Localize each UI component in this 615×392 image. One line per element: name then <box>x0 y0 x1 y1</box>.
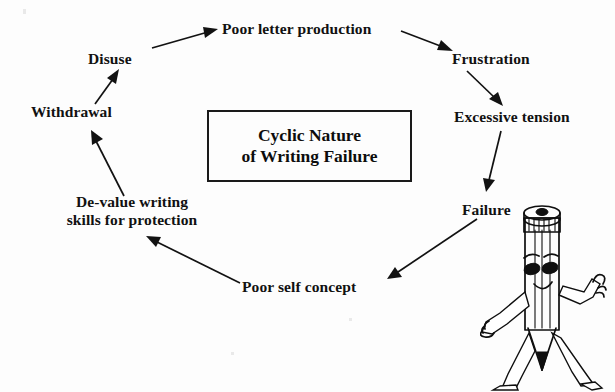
scan-artifact-speck <box>231 352 234 355</box>
arrow-de-value-writing-to-withdrawal <box>91 130 124 196</box>
scan-artifact-speck <box>349 318 352 321</box>
node-poor-self-concept: Poor self concept <box>242 278 356 296</box>
node-excessive-tension: Excessive tension <box>454 108 570 126</box>
arrow-disuse-to-poor-letter-production <box>152 27 218 48</box>
center-title-box: Cyclic Nature of Writing Failure <box>207 110 412 182</box>
arrow-withdrawal-to-disuse <box>95 69 119 104</box>
scan-artifact-speck <box>23 9 26 14</box>
node-frustration: Frustration <box>452 50 530 68</box>
center-title-line-2: of Writing Failure <box>241 146 377 167</box>
node-de-value-writing: De-value writing skills for protection <box>46 193 218 230</box>
node-withdrawal: Withdrawal <box>31 103 112 121</box>
pencil-mascot-icon <box>480 200 615 392</box>
center-title-line-1: Cyclic Nature <box>258 125 361 146</box>
arrow-failure-to-poor-self-concept <box>387 219 477 279</box>
node-disuse: Disuse <box>88 50 132 68</box>
arrow-frustration-to-excessive-tension <box>467 71 503 106</box>
arrow-excessive-tension-to-failure <box>483 131 501 192</box>
cycle-diagram-figure: Poor letter production Frustration Exces… <box>0 0 615 392</box>
node-poor-letter-production: Poor letter production <box>222 20 371 38</box>
arrow-poor-letter-production-to-frustration <box>401 31 453 51</box>
arrow-poor-self-concept-to-de-value-writing <box>146 236 240 283</box>
